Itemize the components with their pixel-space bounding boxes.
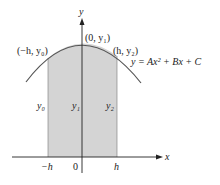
x-axis-label: x — [164, 151, 170, 162]
y-axis-arrow-icon — [80, 18, 85, 25]
tick-h: h — [114, 161, 119, 172]
x-axis-arrow-icon — [156, 155, 163, 160]
ordinate-y1-label: y₁ — [71, 100, 80, 111]
equation-label: y = Ax² + Bx + C — [130, 56, 202, 67]
tick-zero: 0 — [73, 161, 78, 172]
ordinate-y0-label: y₀ — [36, 100, 45, 111]
point-left-label: (−h, y₀) — [17, 45, 48, 57]
diagram-canvas: y x −h 0 h (−h, y₀) (0, y₁) (h, y₂) y₀ y… — [0, 0, 220, 185]
parabola-diagram: y x −h 0 h (−h, y₀) (0, y₁) (h, y₂) y₀ y… — [0, 0, 220, 185]
tick-neg-h: −h — [41, 161, 53, 172]
point-middle-label: (0, y₁) — [85, 32, 110, 44]
y-axis-label: y — [78, 6, 84, 17]
ordinate-y2-label: y₂ — [105, 100, 114, 111]
